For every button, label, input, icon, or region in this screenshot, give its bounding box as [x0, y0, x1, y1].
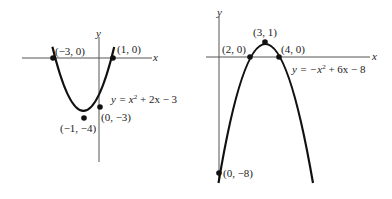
left-label-vertex: (−1, −4): [60, 122, 97, 135]
left-y-label: y: [95, 27, 101, 39]
left-label-1-0: (1, 0): [117, 43, 141, 56]
right-point-yint: [216, 170, 222, 176]
right-point-vertex: [262, 39, 268, 45]
right-y-label: y: [216, 6, 222, 18]
left-x-label: x: [152, 51, 158, 63]
right-point-2-0: [247, 54, 253, 60]
left-point-vertex: [81, 115, 87, 121]
parabola-figures: x y (−3, 0) (1, 0) (−1, −4) (0, −3) y = …: [0, 0, 392, 199]
right-x-label: x: [371, 50, 377, 62]
right-equation: y = −x2 + 6x − 8: [291, 63, 366, 75]
left-label-yint: (0, −3): [101, 111, 131, 124]
left-point-1-0: [110, 55, 116, 61]
left-graph: x y (−3, 0) (1, 0) (−1, −4) (0, −3) y = …: [22, 27, 178, 162]
right-label-yint: (0, −8): [223, 167, 253, 180]
right-label-4-0: (4, 0): [281, 43, 305, 56]
left-label-neg3-0: (−3, 0): [55, 45, 85, 58]
right-label-vertex: (3, 1): [253, 26, 277, 39]
right-graph: x y (2, 0) (4, 0) (3, 1) (0, −8) y = −x2…: [206, 6, 377, 183]
left-point-yint: [97, 104, 103, 110]
right-label-2-0: (2, 0): [222, 43, 246, 56]
right-point-4-0: [276, 54, 282, 60]
left-equation: y = x2 + 2x − 3: [110, 93, 178, 105]
